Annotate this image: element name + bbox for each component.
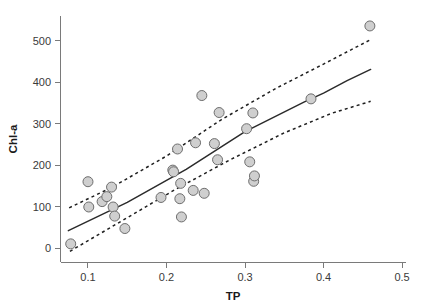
data-point: [213, 155, 223, 165]
data-point: [248, 108, 258, 118]
y-axis-title: Chl-a: [7, 124, 19, 153]
x-tick-label: 0.2: [159, 271, 174, 283]
data-point: [110, 211, 120, 221]
data-point: [175, 194, 185, 204]
y-tick-label: 300: [33, 118, 51, 130]
y-tick-label: 100: [33, 201, 51, 213]
data-point: [365, 21, 375, 31]
data-point: [176, 178, 186, 188]
data-point: [84, 202, 94, 212]
y-tick-label: 0: [45, 242, 51, 254]
y-tick-label: 500: [33, 35, 51, 47]
y-tick-label: 200: [33, 159, 51, 171]
data-point: [176, 212, 186, 222]
data-point: [245, 157, 255, 167]
data-point: [199, 188, 209, 198]
chart-canvas: 0100200300400500 0.10.20.30.40.5 TP Chl-…: [0, 0, 421, 308]
data-point: [173, 144, 183, 154]
data-point: [156, 192, 166, 202]
data-point: [102, 192, 112, 202]
data-point: [242, 124, 252, 134]
x-tick-label: 0.4: [316, 271, 331, 283]
scatter-plot-figure: 0100200300400500 0.10.20.30.40.5 TP Chl-…: [0, 0, 421, 308]
x-axis-title: TP: [226, 290, 241, 302]
data-point: [83, 177, 93, 187]
data-point: [214, 108, 224, 118]
data-point: [209, 139, 219, 149]
y-tick-label: 400: [33, 76, 51, 88]
x-tick-label: 0.3: [237, 271, 252, 283]
data-point: [120, 224, 130, 234]
data-point: [306, 94, 316, 104]
data-point: [108, 202, 118, 212]
x-tick-label: 0.1: [80, 271, 95, 283]
data-point: [169, 167, 179, 177]
x-tick-label: 0.5: [394, 271, 409, 283]
data-point: [107, 182, 117, 192]
data-point: [191, 138, 201, 148]
data-point: [66, 239, 76, 249]
data-point: [197, 91, 207, 101]
data-point: [249, 171, 259, 181]
data-point: [188, 185, 198, 195]
